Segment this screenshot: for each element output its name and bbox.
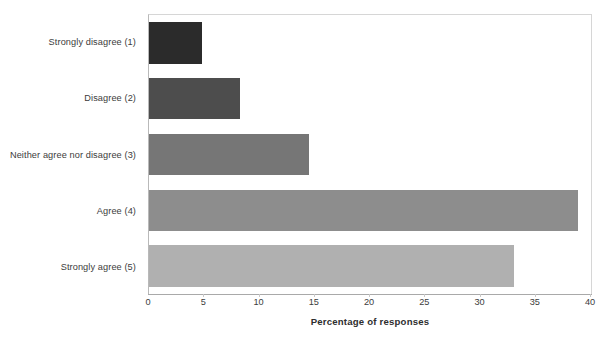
bar-row [149, 127, 591, 183]
x-tick-mark [590, 294, 591, 297]
x-tick-mark [535, 294, 536, 297]
x-tick-label: 10 [253, 297, 263, 307]
category-label-row: Disagree (2) [0, 70, 143, 126]
category-label: Neither agree nor disagree (3) [10, 150, 136, 160]
bar-chart: Strongly disagree (1) Disagree (2) Neith… [0, 0, 609, 346]
bar-strongly-disagree [149, 22, 202, 63]
bars-layer [149, 15, 591, 294]
x-axis-line [148, 294, 592, 295]
plot-area [148, 14, 592, 295]
x-tick-labels: 0510152025303540 [148, 297, 592, 313]
x-tick-mark [369, 294, 370, 297]
x-tick-mark [480, 294, 481, 297]
bar-row [149, 182, 591, 238]
category-label: Strongly disagree (1) [49, 37, 136, 47]
category-label: Strongly agree (5) [61, 262, 136, 272]
x-tick-label: 0 [145, 297, 150, 307]
bar-agree [149, 190, 578, 231]
x-tick-label: 30 [474, 297, 484, 307]
bar-row [149, 15, 591, 71]
x-tick-label: 15 [309, 297, 319, 307]
x-axis-title: Percentage of responses [148, 316, 592, 327]
category-label-row: Agree (4) [0, 183, 143, 239]
bar-row [149, 238, 591, 294]
category-label-row: Strongly agree (5) [0, 239, 143, 295]
bar-disagree [149, 78, 240, 119]
category-label-row: Neither agree nor disagree (3) [0, 126, 143, 182]
category-label-row: Strongly disagree (1) [0, 14, 143, 70]
x-tick-mark [314, 294, 315, 297]
x-tick-label: 25 [419, 297, 429, 307]
x-tick-mark [259, 294, 260, 297]
bar-strongly-agree [149, 245, 514, 286]
x-tick-mark [424, 294, 425, 297]
x-tick-label: 20 [364, 297, 374, 307]
bar-row [149, 71, 591, 127]
category-label: Agree (4) [97, 206, 136, 216]
category-label: Disagree (2) [84, 93, 136, 103]
x-tick-mark [203, 294, 204, 297]
category-axis: Strongly disagree (1) Disagree (2) Neith… [0, 14, 143, 295]
x-tick-label: 40 [585, 297, 595, 307]
bar-neither [149, 134, 309, 175]
x-tick-label: 5 [201, 297, 206, 307]
x-tick-label: 35 [530, 297, 540, 307]
